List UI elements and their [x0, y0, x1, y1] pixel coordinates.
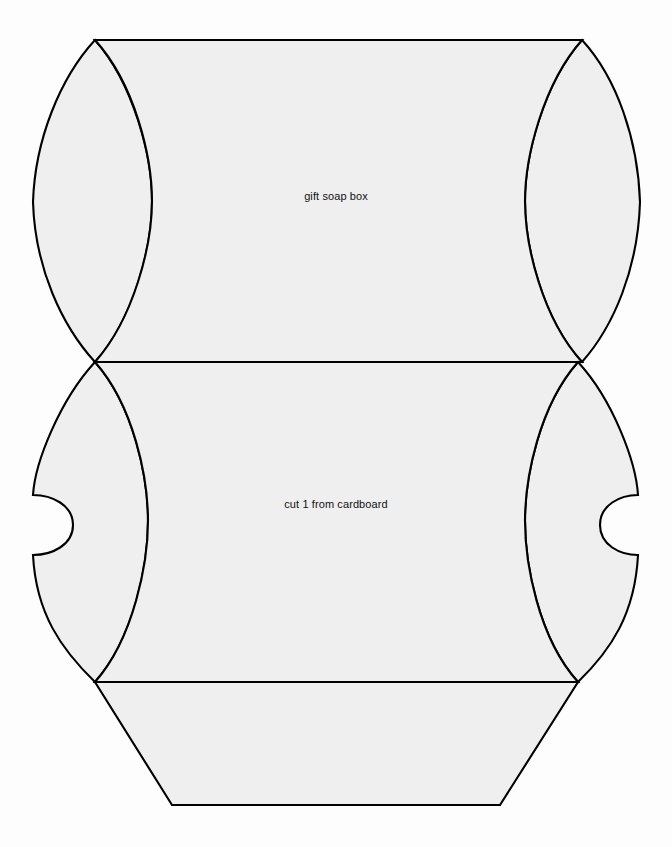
lower-main-panel [95, 362, 578, 682]
pillow-box-template-drawing [0, 0, 672, 847]
bottom-flap [95, 682, 578, 805]
bottom-panel-label: cut 1 from cardboard [0, 498, 672, 510]
top-panel-label: gift soap box [0, 190, 672, 202]
template-page: gift soap box cut 1 from cardboard [0, 0, 672, 847]
